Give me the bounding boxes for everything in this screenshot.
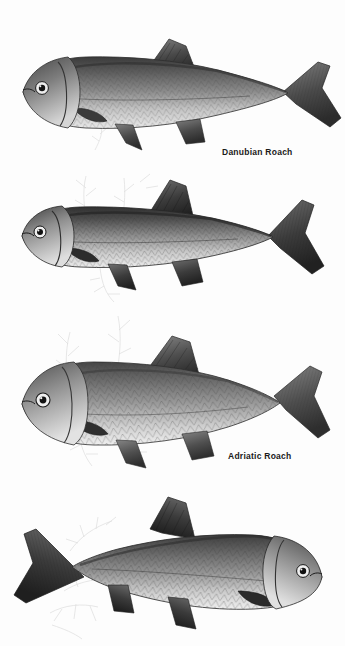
fish-illustration-4 <box>0 473 345 646</box>
fish-illustration-3 <box>0 308 345 473</box>
fish-illustration-2 <box>0 168 345 308</box>
fish-figure-pearl-roach: Pearl Roach <box>0 473 345 646</box>
fish-head <box>23 57 80 128</box>
pelvic-fin <box>115 124 142 150</box>
fish-illustration-1 <box>0 0 345 168</box>
anal-fin <box>176 119 205 144</box>
fish-figure-adriatic-roach: Adriatic Roach <box>0 168 345 308</box>
pelvic-fin <box>108 264 136 290</box>
fish-head <box>263 536 322 609</box>
anal-fin <box>182 431 214 460</box>
fish-figure-calandino-roach: Calandino Roach <box>0 308 345 473</box>
fish-head <box>22 362 88 445</box>
pelvic-fin <box>116 440 146 468</box>
anal-fin <box>172 259 203 286</box>
fish-figure-danubian-roach: Danubian Roach <box>0 0 345 168</box>
fish-plate: Danubian Roach <box>0 0 345 646</box>
fish-caption-danubian-roach: Danubian Roach <box>222 147 293 157</box>
fish-head <box>22 206 74 267</box>
